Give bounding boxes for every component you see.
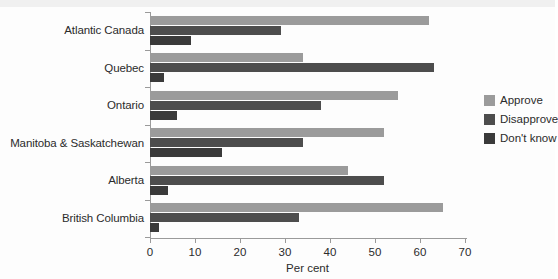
chart-legend: ApproveDisapproveDon't know bbox=[484, 92, 554, 149]
legend-item[interactable]: Don't know bbox=[484, 130, 554, 149]
x-tick bbox=[285, 238, 286, 243]
bar-group: Atlantic Canada bbox=[150, 12, 465, 50]
x-tick bbox=[375, 238, 376, 243]
x-tick-label: 0 bbox=[130, 246, 170, 258]
bar-group: Manitoba & Saskatchewan bbox=[150, 125, 465, 163]
y-tick bbox=[145, 12, 150, 13]
legend-swatch-icon bbox=[484, 114, 495, 125]
bar-approve bbox=[150, 166, 348, 175]
y-tick bbox=[145, 87, 150, 88]
bar-don-t-know bbox=[150, 111, 177, 120]
x-tick bbox=[150, 238, 151, 243]
legend-item[interactable]: Disapprove bbox=[484, 111, 554, 130]
category-label-alberta: Alberta bbox=[2, 162, 144, 200]
plot-area: Atlantic CanadaQuebecOntarioManitoba & S… bbox=[150, 12, 465, 237]
x-tick-label: 60 bbox=[400, 246, 440, 258]
y-tick bbox=[145, 50, 150, 51]
bar-disapprove bbox=[150, 213, 299, 222]
x-tick bbox=[195, 238, 196, 243]
bar-disapprove bbox=[150, 26, 281, 35]
bar-approve bbox=[150, 91, 398, 100]
x-tick-label: 40 bbox=[310, 246, 350, 258]
bar-don-t-know bbox=[150, 73, 164, 82]
x-axis-title: Per cent bbox=[150, 262, 465, 274]
category-label-british-columbia: British Columbia bbox=[2, 200, 144, 238]
x-tick-label: 10 bbox=[175, 246, 215, 258]
legend-swatch-icon bbox=[484, 133, 495, 144]
bar-don-t-know bbox=[150, 148, 222, 157]
legend-swatch-icon bbox=[484, 95, 495, 106]
y-tick bbox=[145, 237, 150, 238]
bar-approve bbox=[150, 203, 443, 212]
bar-approve bbox=[150, 128, 384, 137]
x-tick bbox=[465, 238, 466, 243]
bar-group: Alberta bbox=[150, 162, 465, 200]
x-tick-label: 20 bbox=[220, 246, 260, 258]
bar-don-t-know bbox=[150, 36, 191, 45]
x-tick bbox=[240, 238, 241, 243]
legend-item[interactable]: Approve bbox=[484, 92, 554, 111]
category-label-manitoba-saskatchewan: Manitoba & Saskatchewan bbox=[2, 125, 144, 163]
bar-disapprove bbox=[150, 101, 321, 110]
legend-label: Disapprove bbox=[500, 111, 558, 128]
legend-label: Approve bbox=[500, 92, 543, 109]
x-tick-label: 50 bbox=[355, 246, 395, 258]
y-tick bbox=[145, 125, 150, 126]
bar-approve bbox=[150, 16, 429, 25]
bar-don-t-know bbox=[150, 223, 159, 232]
bar-don-t-know bbox=[150, 186, 168, 195]
category-label-quebec: Quebec bbox=[2, 50, 144, 88]
bar-group: Ontario bbox=[150, 87, 465, 125]
bar-group: Quebec bbox=[150, 50, 465, 88]
bar-disapprove bbox=[150, 63, 434, 72]
bar-disapprove bbox=[150, 176, 384, 185]
y-tick bbox=[145, 200, 150, 201]
legend-label: Don't know bbox=[500, 130, 557, 147]
x-tick bbox=[330, 238, 331, 243]
y-tick bbox=[145, 162, 150, 163]
bar-approve bbox=[150, 53, 303, 62]
category-label-ontario: Ontario bbox=[2, 87, 144, 125]
x-tick bbox=[420, 238, 421, 243]
x-tick-label: 70 bbox=[445, 246, 485, 258]
bar-group: British Columbia bbox=[150, 200, 465, 238]
x-tick-label: 30 bbox=[265, 246, 305, 258]
category-label-atlantic-canada: Atlantic Canada bbox=[2, 12, 144, 50]
bar-disapprove bbox=[150, 138, 303, 147]
